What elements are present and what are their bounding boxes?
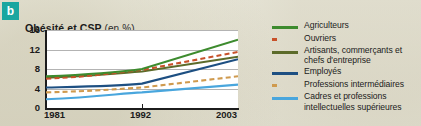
legend-swatch-icon [272,48,298,57]
legend-item[interactable]: Employés [272,66,421,78]
legend-item[interactable]: Artisants, commerçants et chefs d'entrep… [272,45,421,65]
chart-legend: AgriculteursOuvriersArtisants, commerçan… [272,20,421,113]
x-axis-tick-label: 1992 [130,110,151,120]
legend-item-label: Ouvriers [304,33,336,43]
legend-item-label: Employés [304,66,341,76]
legend-swatch-icon [272,35,298,44]
y-axis-tick-label: 16 [0,25,40,35]
legend-swatch-icon [272,69,298,78]
legend-item[interactable]: Professions intermédiaires [272,79,421,91]
legend-item-label: Professions intermédiaires [304,79,404,89]
legend-item[interactable]: Cadres et professions intellectuelles su… [272,91,421,111]
legend-swatch-icon [272,23,298,32]
figure-panel: b Obésité et CSP (en %) 0481216198119922… [0,0,421,126]
chart-series-group [46,30,238,108]
legend-item-label: Cadres et professions intellectuelles su… [304,91,421,111]
legend-swatch-icon [272,81,298,90]
y-axis-tick-label: 4 [0,84,40,94]
figure-badge: b [2,2,19,20]
chart-plot-area: 0481216198119922003 [0,20,265,120]
legend-item[interactable]: Ouvriers [272,33,421,45]
y-axis-tick-label: 8 [0,64,40,74]
y-axis-tick-label: 12 [0,45,40,55]
legend-swatch-icon [272,94,298,103]
y-axis-tick-label: 0 [0,103,40,113]
series-line [46,59,238,87]
x-axis-tick-label: 2003 [216,110,237,120]
legend-item[interactable]: Agriculteurs [272,20,421,32]
legend-item-label: Artisants, commerçants et chefs d'entrep… [304,45,421,65]
x-axis-tick-mark [142,104,143,108]
x-axis-tick-label: 1981 [44,110,65,120]
legend-item-label: Agriculteurs [304,20,349,30]
